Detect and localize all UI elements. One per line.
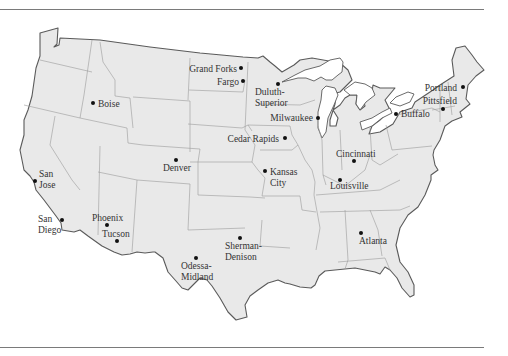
city-label: Cincinnati	[336, 149, 376, 159]
city-dot-icon	[105, 223, 109, 227]
city-dot-icon	[283, 136, 287, 140]
city-dot-icon	[276, 82, 280, 86]
city-label: Kansas	[270, 167, 298, 177]
city-dot-icon	[115, 239, 119, 243]
city-label: City	[270, 178, 287, 188]
city-label: Tucson	[102, 229, 130, 239]
city-label: Portland	[425, 83, 457, 93]
us-landmass	[20, 28, 484, 320]
city-label: Pittsfield	[423, 96, 458, 106]
city-dot-icon	[263, 169, 267, 173]
city-dot-icon	[394, 112, 398, 116]
city-dot-icon	[60, 218, 64, 222]
city-label: Superior	[255, 98, 289, 108]
city-label: Buffalo	[401, 109, 430, 119]
city-label: Midland	[181, 272, 213, 282]
city-label: Sherman-	[225, 241, 262, 251]
city-cedar-rapids: Cedar Rapids	[228, 134, 287, 144]
city-label: Denver	[163, 163, 192, 173]
city-label: Denison	[225, 252, 257, 262]
city-label: Atlanta	[359, 236, 388, 246]
us-map: Grand ForksFargoDuluth-SuperiorBoiseMilw…	[0, 0, 508, 356]
city-label: Milwaukee	[270, 113, 313, 123]
city-label: Louisville	[330, 181, 369, 191]
city-label: Duluth-	[255, 87, 285, 97]
city-dot-icon	[91, 101, 95, 105]
city-label: Boise	[98, 99, 120, 109]
city-dot-icon	[316, 116, 320, 120]
city-label: San	[39, 169, 54, 179]
city-dot-icon	[33, 179, 37, 183]
city-milwaukee: Milwaukee	[270, 113, 320, 123]
city-label: Odessa-	[181, 261, 212, 271]
city-label: Diego	[38, 225, 61, 235]
city-label: Grand Forks	[189, 64, 237, 74]
city-dot-icon	[441, 107, 445, 111]
city-dot-icon	[461, 85, 465, 89]
city-label: San	[38, 214, 53, 224]
city-label: Jose	[39, 180, 55, 190]
city-label: Fargo	[217, 77, 239, 87]
city-dot-icon	[194, 256, 198, 260]
city-dot-icon	[238, 236, 242, 240]
city-grand-forks: Grand Forks	[189, 64, 243, 74]
city-dot-icon	[359, 231, 363, 235]
city-label: Phoenix	[92, 213, 123, 223]
city-dot-icon	[352, 159, 356, 163]
city-dot-icon	[241, 79, 245, 83]
city-dot-icon	[239, 66, 243, 70]
city-dot-icon	[174, 158, 178, 162]
lake-ontario	[390, 92, 414, 106]
city-label: Cedar Rapids	[228, 134, 280, 144]
